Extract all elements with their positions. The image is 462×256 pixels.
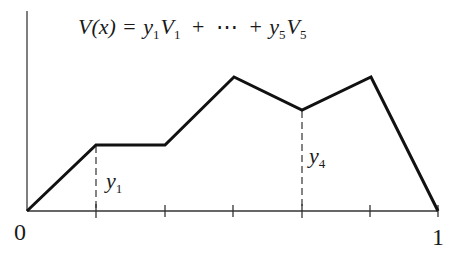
label-y4-main: y <box>307 143 319 168</box>
label-y1-sub: 1 <box>116 181 123 196</box>
term1-coef-sub: 1 <box>153 27 160 42</box>
formula-ellipsis: ⋯ <box>216 14 238 39</box>
term1-fn-sub: 1 <box>174 27 181 42</box>
label-y1-main: y <box>104 168 116 193</box>
label-y1: y1 <box>104 168 122 196</box>
axis-label-origin: 0 <box>14 219 26 245</box>
term5-fn-sub: 5 <box>300 27 307 42</box>
formula-lhs: V(x) <box>78 14 116 39</box>
formula-equals: = <box>123 14 135 39</box>
function-graph <box>27 77 438 211</box>
axis-label-end: 1 <box>432 224 444 250</box>
label-y4-sub: 4 <box>319 156 326 171</box>
formula: V(x) = y1V1 + ⋯ + y5V5 <box>78 14 307 44</box>
term1-coef: y <box>141 14 153 39</box>
term5-coef: y <box>267 14 279 39</box>
term5-coef-sub: 5 <box>279 27 286 42</box>
formula-plus-2: + <box>249 14 261 39</box>
label-y4: y4 <box>307 143 326 171</box>
formula-plus-1: + <box>192 14 204 39</box>
piecewise-linear-diagram: V(x) = y1V1 + ⋯ + y5V5 y1 y4 0 1 <box>0 0 462 256</box>
